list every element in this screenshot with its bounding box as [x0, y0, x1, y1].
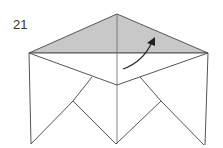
shaded-flap	[29, 14, 208, 53]
right-inner-fold	[140, 77, 161, 101]
origami-diagram	[0, 0, 223, 148]
white-flap	[29, 53, 208, 85]
left-edge	[29, 53, 31, 144]
bottom-zigzag	[31, 101, 204, 145]
right-edge	[205, 53, 208, 145]
left-inner-fold	[73, 77, 92, 101]
